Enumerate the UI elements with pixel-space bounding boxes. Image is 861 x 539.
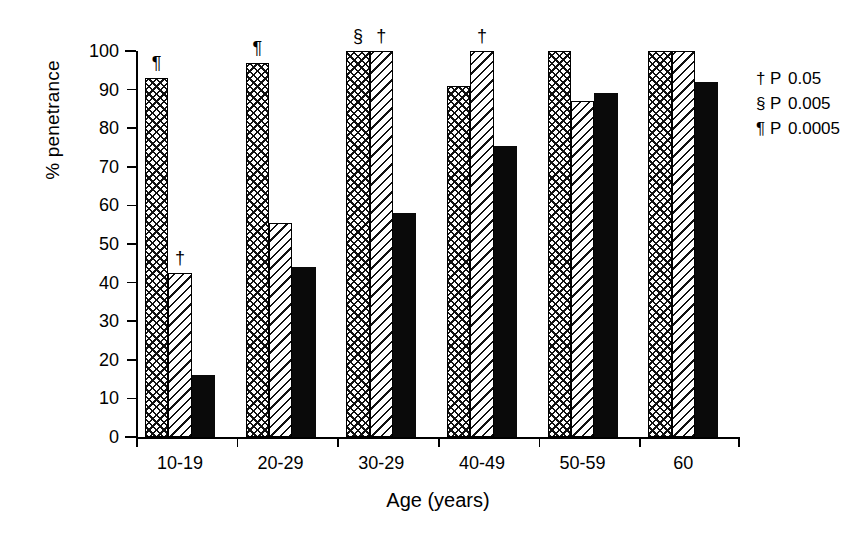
x-tick-2 (337, 437, 339, 447)
bar-50-59-crosshatch (548, 51, 571, 437)
bar-30-29-diagonal (370, 51, 393, 437)
x-tick-label-10-19: 10-19 (130, 453, 230, 474)
significance-legend: †P0.05§P0.005¶P0.0005 (756, 66, 861, 141)
legend-row-2: ¶P0.0005 (756, 116, 861, 141)
y-tick-label-30: 30 (77, 312, 119, 330)
bar-50-59-solid (594, 93, 617, 437)
bar-10-19-crosshatch (145, 78, 168, 437)
y-tick-label-60: 60 (77, 196, 119, 214)
y-tick-30 (127, 320, 136, 322)
legend-p-label-1: P (770, 91, 788, 116)
x-tick-label-50-59: 50-59 (533, 453, 633, 474)
bar-40-49-diagonal (470, 51, 493, 437)
bar-50-59-diagonal (571, 101, 594, 437)
y-tick-100 (125, 50, 136, 52)
bar-60-crosshatch (648, 51, 671, 437)
legend-p-value-1: 0.005 (788, 91, 831, 116)
bar-30-29-crosshatch (346, 51, 369, 437)
y-tick-0 (125, 436, 136, 438)
x-tick-label-30-29: 30-29 (331, 453, 431, 474)
y-tick-label-10: 10 (77, 389, 119, 407)
significance-marker-30-29-diagonal: † (361, 27, 401, 45)
bar-20-29-solid (292, 267, 315, 437)
y-axis-line (136, 51, 138, 437)
legend-symbol-0: † (756, 66, 770, 91)
significance-marker-20-29-crosshatch: ¶ (237, 39, 277, 57)
significance-marker-10-19-crosshatch: ¶ (137, 54, 177, 72)
x-tick-5 (639, 437, 641, 447)
bar-40-49-solid (494, 146, 517, 437)
bar-30-29-solid (393, 213, 416, 437)
y-tick-70 (127, 166, 136, 168)
x-tick-3 (438, 437, 440, 447)
x-tick-4 (539, 437, 541, 447)
legend-row-1: §P0.005 (756, 91, 861, 116)
legend-p-label-0: P (770, 66, 788, 91)
significance-marker-40-49-diagonal: † (462, 27, 502, 45)
legend-row-0: †P0.05 (756, 66, 861, 91)
y-tick-60 (127, 205, 136, 207)
x-tick-0 (136, 437, 138, 447)
bar-20-29-diagonal (269, 223, 292, 437)
y-tick-label-40: 40 (77, 274, 119, 292)
y-tick-90 (127, 89, 136, 91)
y-tick-label-70: 70 (77, 158, 119, 176)
x-axis-title: Age (years) (136, 489, 740, 512)
x-tick-1 (237, 437, 239, 447)
x-tick-label-40-49: 40-49 (432, 453, 532, 474)
y-tick-label-80: 80 (77, 119, 119, 137)
bar-60-solid (695, 82, 718, 437)
y-tick-label-100: 100 (77, 42, 119, 60)
x-tick-label-60: 60 (633, 453, 733, 474)
bar-10-19-solid (192, 375, 215, 437)
plot-area: 0102030405060708090100 10-1920-2930-2940… (136, 51, 740, 437)
y-axis-title: % penetrance (42, 30, 82, 210)
y-tick-10 (127, 398, 136, 400)
legend-p-label-2: P (770, 116, 788, 141)
legend-p-value-0: 0.05 (788, 66, 821, 91)
penetrance-bar-chart: % penetrance 0102030405060708090100 10-1… (0, 0, 861, 539)
y-tick-20 (127, 359, 136, 361)
bar-20-29-crosshatch (246, 63, 269, 437)
x-tick-end (738, 437, 740, 447)
legend-symbol-1: § (756, 91, 770, 116)
bar-40-49-crosshatch (447, 86, 470, 437)
y-tick-40 (127, 282, 136, 284)
bar-60-diagonal (672, 51, 695, 437)
y-tick-50 (127, 243, 136, 245)
y-tick-80 (127, 127, 136, 129)
y-tick-label-90: 90 (77, 81, 119, 99)
y-tick-label-0: 0 (77, 428, 119, 446)
legend-symbol-2: ¶ (756, 116, 770, 141)
y-tick-label-20: 20 (77, 351, 119, 369)
x-tick-label-20-29: 20-29 (231, 453, 331, 474)
bar-10-19-diagonal (168, 273, 191, 437)
legend-p-value-2: 0.0005 (788, 116, 840, 141)
y-tick-label-50: 50 (77, 235, 119, 253)
